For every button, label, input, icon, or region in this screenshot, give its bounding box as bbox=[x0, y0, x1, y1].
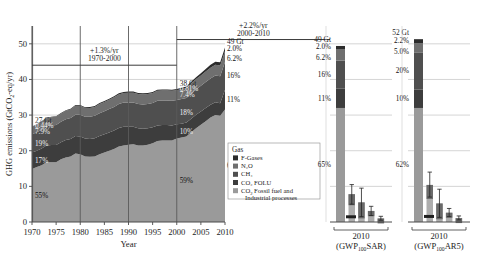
panel-stack-segment bbox=[336, 88, 345, 108]
legend-swatch bbox=[233, 172, 238, 177]
panel-stack-segment bbox=[414, 108, 423, 222]
share-label: 17% bbox=[35, 157, 48, 165]
panel-share-label: 2.0% bbox=[316, 43, 331, 51]
share-label-2010: 16% bbox=[227, 72, 240, 80]
y-tick-label: 40 bbox=[18, 74, 27, 84]
x-tick-label: 2000 bbox=[168, 227, 185, 237]
x-tick-label: 1995 bbox=[144, 227, 161, 237]
share-label: 18% bbox=[180, 109, 193, 117]
panel-share-label: 2.2% bbox=[394, 37, 409, 45]
y-tick-label: 10 bbox=[18, 181, 27, 191]
panel-stack-segment bbox=[414, 52, 423, 89]
panel-stack-segment bbox=[336, 108, 345, 222]
legend-swatch bbox=[233, 180, 238, 185]
share-label: 19% bbox=[35, 140, 48, 148]
y-tick-label: 0 bbox=[23, 217, 27, 227]
panel-fgas-marker bbox=[346, 215, 356, 218]
panel-stack-segment bbox=[414, 39, 423, 43]
panel-share-label: 62% bbox=[396, 161, 409, 169]
panel-metric-label: (GWP100AR5) bbox=[414, 241, 464, 252]
panel-year-label: 2010 bbox=[430, 231, 447, 241]
legend-swatch bbox=[233, 164, 238, 169]
legend-title: Gas bbox=[232, 146, 243, 154]
share-label: 59% bbox=[180, 177, 193, 185]
panel-stack-segment bbox=[336, 61, 345, 89]
legend-label[interactable]: CH₄ bbox=[241, 170, 253, 177]
share-label: 55% bbox=[35, 192, 48, 200]
y-tick-label: 30 bbox=[18, 110, 27, 120]
legend-label[interactable]: CO2 Fossil fuel andIndustrial processes bbox=[241, 187, 298, 201]
panel-share-label: 10% bbox=[396, 95, 409, 103]
x-tick-label: 2005 bbox=[192, 227, 209, 237]
share-label-2010: 6.2% bbox=[227, 55, 242, 63]
panel-share-label: 6.2% bbox=[316, 54, 331, 62]
x-tick-label: 1990 bbox=[120, 227, 137, 237]
x-tick-label: 1980 bbox=[72, 227, 89, 237]
panel-stack-segment bbox=[336, 50, 345, 61]
share-label: 7.9% bbox=[35, 128, 50, 136]
share-label-2010: 11% bbox=[227, 96, 240, 104]
panel-share-label: 16% bbox=[318, 71, 331, 79]
ghg-emissions-figure: 0102030405019701975198019851990199520002… bbox=[0, 0, 487, 261]
y-axis-title: GHG emissions (GtCO2-eq/yr) bbox=[5, 72, 15, 176]
y-tick-label: 20 bbox=[18, 146, 27, 156]
panel-stack-segment bbox=[414, 89, 423, 108]
figure-root: 0102030405019701975198019851990199520002… bbox=[0, 0, 487, 261]
legend-label[interactable]: CO₂ FOLU bbox=[241, 179, 272, 186]
x-tick-label: 1975 bbox=[48, 227, 65, 237]
share-label-2010: 2.0% bbox=[227, 45, 242, 53]
rate-period-2000-2010: 2000-2010 bbox=[237, 29, 270, 38]
panel-fgas-marker bbox=[424, 215, 434, 218]
y-tick-label: 50 bbox=[18, 39, 27, 49]
panel-share-label: 20% bbox=[396, 67, 409, 75]
share-label: 10% bbox=[180, 128, 193, 136]
legend-label[interactable]: N₂O bbox=[241, 162, 253, 169]
panel-share-label: 65% bbox=[318, 161, 331, 169]
legend-swatch bbox=[233, 188, 238, 193]
panel-metric-label: (GWP100SAR) bbox=[336, 241, 386, 252]
panel-stack-segment bbox=[414, 43, 423, 52]
panel-share-label: 5.0% bbox=[394, 48, 409, 56]
x-axis-title: Year bbox=[120, 239, 136, 249]
legend-swatch bbox=[233, 155, 238, 160]
rate-period-1970-2000: 1970-2000 bbox=[88, 54, 121, 63]
panel-stack-segment bbox=[336, 46, 345, 50]
panel-share-label: 11% bbox=[318, 95, 331, 103]
panel-year-label: 2010 bbox=[352, 231, 369, 241]
share-label: 7.4% bbox=[180, 91, 195, 99]
legend-label[interactable]: F-Gases bbox=[241, 154, 263, 161]
x-tick-label: 2010 bbox=[216, 227, 233, 237]
x-tick-label: 1970 bbox=[23, 227, 40, 237]
x-tick-label: 1985 bbox=[96, 227, 113, 237]
